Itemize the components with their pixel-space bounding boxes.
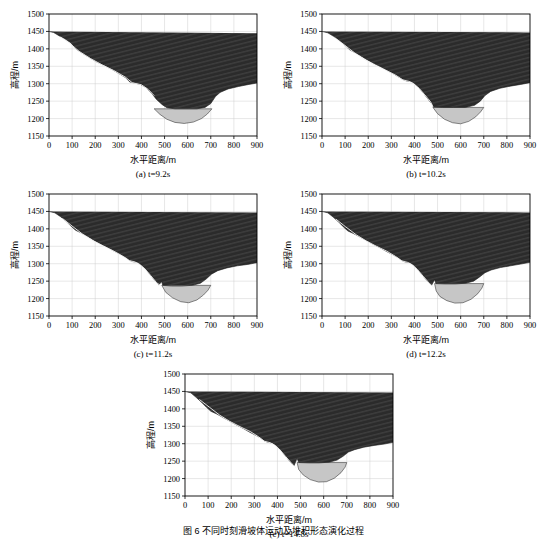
y-tick-label: 1500	[300, 10, 317, 19]
y-axis: 11501200125013001350140014501500	[163, 370, 185, 501]
x-axis: 0100200300400500600700800900	[320, 136, 536, 150]
y-tick-label: 1350	[27, 242, 44, 251]
x-tick-label: 500	[158, 141, 171, 150]
y-tick-label: 1250	[163, 457, 180, 466]
x-tick-label: 0	[47, 321, 51, 330]
x-tick-label: 400	[408, 141, 421, 150]
y-tick-label: 1350	[163, 422, 180, 431]
y-tick-label: 1350	[300, 242, 317, 251]
x-tick-label: 300	[248, 501, 261, 510]
x-tick-label: 0	[320, 141, 324, 150]
y-axis-title: 高程/m	[282, 241, 293, 269]
y-tick-label: 1500	[300, 190, 317, 199]
y-tick-label: 1150	[301, 132, 317, 141]
y-tick-label: 1250	[300, 277, 317, 286]
x-axis: 0100200300400500600700800900	[47, 136, 263, 150]
x-tick-label: 700	[477, 141, 490, 150]
x-tick-label: 200	[225, 501, 238, 510]
y-axis: 11501200125013001350140014501500	[300, 10, 322, 141]
x-tick-label: 100	[66, 321, 79, 330]
y-tick-label: 1400	[300, 225, 317, 234]
x-tick-label: 100	[66, 141, 79, 150]
panel-c: 0100200300400500600700800900115012001250…	[8, 186, 266, 362]
x-tick-label: 300	[112, 321, 125, 330]
panel-a: 0100200300400500600700800900115012001250…	[8, 6, 266, 182]
x-axis-title: 水平距离/m	[403, 154, 449, 165]
x-tick-label: 700	[340, 501, 353, 510]
x-tick-label: 800	[228, 321, 241, 330]
y-tick-label: 1350	[300, 62, 317, 71]
x-tick-label: 700	[204, 321, 217, 330]
y-tick-label: 1400	[27, 225, 44, 234]
x-tick-label: 0	[183, 501, 187, 510]
x-tick-label: 500	[431, 321, 444, 330]
x-tick-label: 300	[385, 321, 398, 330]
x-tick-label: 800	[364, 501, 377, 510]
panel-caption-b: (b) t=10.2s	[406, 169, 446, 179]
x-axis: 0100200300400500600700800900	[320, 316, 536, 330]
x-tick-label: 600	[181, 321, 194, 330]
y-tick-label: 1200	[300, 295, 317, 304]
x-axis-title: 水平距离/m	[130, 334, 176, 345]
x-tick-label: 800	[501, 141, 514, 150]
x-axis-title: 水平距离/m	[403, 334, 449, 345]
x-tick-label: 200	[362, 141, 375, 150]
y-tick-label: 1500	[27, 10, 44, 19]
y-tick-label: 1250	[27, 97, 44, 106]
y-tick-label: 1350	[27, 62, 44, 71]
y-tick-label: 1300	[27, 80, 44, 89]
y-tick-label: 1200	[163, 475, 180, 484]
x-axis: 0100200300400500600700800900	[47, 316, 263, 330]
x-tick-label: 800	[228, 141, 241, 150]
y-tick-label: 1300	[300, 260, 317, 269]
panel-b: 0100200300400500600700800900115012001250…	[281, 6, 539, 182]
panel-e: 0100200300400500600700800900115012001250…	[144, 366, 402, 542]
x-tick-label: 600	[454, 141, 467, 150]
y-tick-label: 1300	[300, 80, 317, 89]
y-tick-label: 1500	[163, 370, 180, 379]
y-tick-label: 1400	[163, 405, 180, 414]
y-tick-label: 1200	[27, 115, 44, 124]
y-tick-label: 1450	[27, 27, 44, 36]
y-tick-label: 1150	[301, 312, 317, 321]
panel-caption-d: (d) t=12.2s	[406, 349, 446, 359]
y-axis-title: 高程/m	[145, 421, 156, 449]
panel-caption-a: (a) t=9.2s	[136, 169, 171, 179]
x-tick-label: 800	[501, 321, 514, 330]
y-axis-title: 高程/m	[9, 61, 20, 89]
y-axis: 11501200125013001350140014501500	[27, 10, 49, 141]
y-tick-label: 1400	[300, 45, 317, 54]
x-tick-label: 500	[294, 501, 307, 510]
x-axis: 0100200300400500600700800900	[183, 496, 399, 510]
x-tick-label: 300	[385, 141, 398, 150]
x-tick-label: 600	[181, 141, 194, 150]
x-tick-label: 700	[204, 141, 217, 150]
x-tick-label: 100	[339, 141, 352, 150]
y-tick-label: 1400	[27, 45, 44, 54]
x-tick-label: 200	[89, 321, 102, 330]
y-tick-label: 1300	[163, 440, 180, 449]
y-tick-label: 1450	[300, 27, 317, 36]
x-tick-label: 400	[135, 141, 148, 150]
x-tick-label: 0	[47, 141, 51, 150]
x-tick-label: 200	[362, 321, 375, 330]
x-tick-label: 0	[320, 321, 324, 330]
y-tick-label: 1150	[28, 132, 44, 141]
y-axis: 11501200125013001350140014501500	[27, 190, 49, 321]
y-tick-label: 1450	[163, 387, 180, 396]
x-tick-label: 100	[339, 321, 352, 330]
y-tick-label: 1500	[27, 190, 44, 199]
y-tick-label: 1150	[164, 492, 180, 501]
x-tick-label: 900	[524, 321, 537, 330]
figure-caption: 图 6 不同时刻滑坡体运动及堆积形态演化过程	[0, 524, 547, 537]
x-tick-label: 700	[477, 321, 490, 330]
panel-d: 0100200300400500600700800900115012001250…	[281, 186, 539, 362]
y-tick-label: 1200	[300, 115, 317, 124]
x-tick-label: 600	[454, 321, 467, 330]
y-tick-label: 1250	[300, 97, 317, 106]
x-tick-label: 900	[387, 501, 400, 510]
x-tick-label: 500	[158, 321, 171, 330]
panel-caption-c: (c) t=11.2s	[134, 349, 173, 359]
y-tick-label: 1250	[27, 277, 44, 286]
